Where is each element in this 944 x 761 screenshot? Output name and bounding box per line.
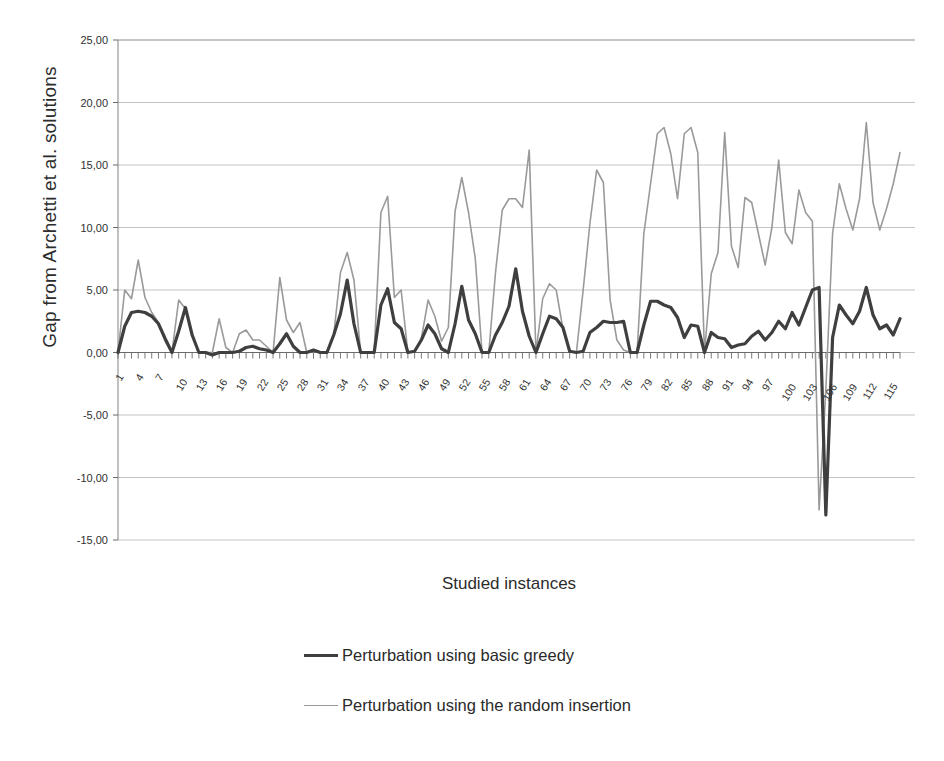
x-axis-title: Studied instances: [118, 574, 900, 594]
y-tick-label: 15,00: [80, 159, 108, 171]
chart-figure: Gap from Archetti et al. solutions 25,00…: [0, 0, 944, 761]
y-tick-label: 0,00: [87, 347, 108, 359]
legend-label-random-insertion: Perturbation using the random insertion: [342, 696, 631, 715]
legend-line-swatch-dark-icon: [304, 654, 338, 657]
y-tick-label: 25,00: [80, 34, 108, 46]
legend-line-swatch-gray-icon: [304, 705, 338, 706]
legend-label-basic-greedy: Perturbation using basic greedy: [342, 646, 574, 665]
y-axis-title: Gap from Archetti et al. solutions: [39, 0, 61, 417]
chart-legend: Perturbation using basic greedy Perturba…: [118, 630, 900, 730]
y-tick-label: 20,00: [80, 97, 108, 109]
y-tick-label: -15,00: [77, 534, 108, 546]
y-tick-label: 5,00: [87, 284, 108, 296]
y-tick-label: -5,00: [83, 409, 108, 421]
legend-item-basic-greedy: Perturbation using basic greedy: [118, 630, 900, 680]
series-line-random-insertion: [118, 123, 900, 511]
y-tick-label: -10,00: [77, 472, 108, 484]
y-tick-label: 10,00: [80, 222, 108, 234]
legend-item-random-insertion: Perturbation using the random insertion: [118, 680, 900, 730]
